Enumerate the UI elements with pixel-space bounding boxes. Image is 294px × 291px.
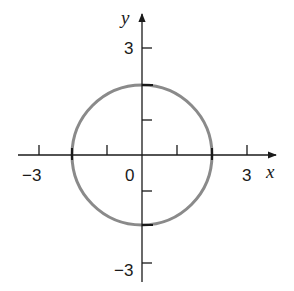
x-tick-label-neg3: −3 — [22, 166, 41, 185]
y-axis-label: y — [119, 7, 130, 28]
y-tick-label-3: 3 — [124, 39, 133, 58]
coordinate-plane: y x 3 −3 −3 0 3 — [0, 0, 294, 291]
y-tick-label-neg3: −3 — [114, 261, 133, 280]
origin-label: 0 — [125, 166, 134, 185]
x-axis-label: x — [265, 161, 275, 182]
x-ticks — [39, 145, 247, 155]
x-tick-label-3: 3 — [242, 166, 251, 185]
